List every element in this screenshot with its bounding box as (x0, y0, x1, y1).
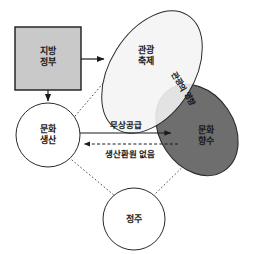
local-government-label-line2: 정부 (40, 56, 56, 67)
settlement-label-line1: 정주 (126, 213, 142, 224)
diagram-canvas: 문화 향수 관광 축제 관광의 영향 지방 정부 문화 생산 정주 (0, 0, 264, 254)
tourism-festival-label-line2: 축제 (138, 55, 154, 66)
cultural-production-label-line2: 생산 (40, 134, 57, 145)
cultural-consumption-label-line2: 향수 (198, 135, 214, 146)
node-cultural-production[interactable]: 문화 생산 (16, 103, 80, 167)
no-return-label: 생산환원 없음 (105, 149, 156, 159)
tourism-festival-label-line1: 관광 (138, 44, 155, 55)
cultural-production-label-line1: 문화 (40, 123, 57, 134)
diagram-svg: 문화 향수 관광 축제 관광의 영향 지방 정부 문화 생산 정주 (0, 0, 264, 254)
node-settlement[interactable]: 정주 (103, 188, 165, 250)
local-government-label-line1: 지방 (40, 45, 57, 56)
free-supply-label: 무상공급 (110, 120, 142, 130)
cultural-consumption-label-line1: 문화 (198, 124, 215, 135)
node-local-government[interactable]: 지방 정부 (15, 27, 81, 90)
